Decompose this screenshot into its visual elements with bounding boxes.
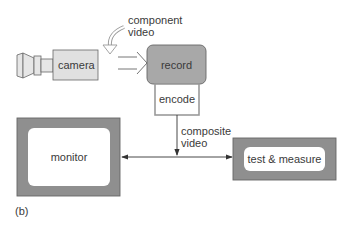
record-label: record xyxy=(147,59,206,71)
figure-caption: (b) xyxy=(15,205,28,217)
component-label-line1: component xyxy=(128,14,182,26)
encode-label: encode xyxy=(155,93,199,105)
diagram-canvas xyxy=(0,0,354,230)
composite-label-line2: video xyxy=(181,137,207,149)
composite-label-line1: composite xyxy=(181,125,231,137)
camera-to-record-arrow xyxy=(118,52,147,74)
test-measure-label: test & measure xyxy=(244,153,325,165)
monitor-label: monitor xyxy=(28,151,110,163)
camera-label: camera xyxy=(58,59,95,71)
component-video-arrow xyxy=(103,27,124,54)
component-label-line2: video xyxy=(128,26,154,38)
